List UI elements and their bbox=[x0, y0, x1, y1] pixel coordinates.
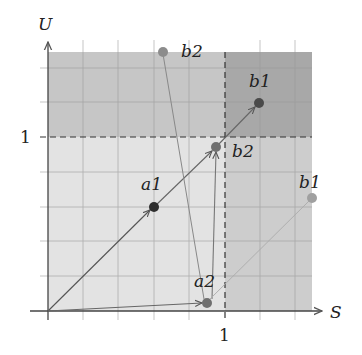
region-top-band bbox=[48, 52, 225, 137]
payoff-diagram: S U 1 1 a1 b2 b1 b2 a2 b1 bbox=[0, 0, 362, 355]
label-b2-mid: b2 bbox=[232, 141, 254, 161]
point-b1-dark bbox=[254, 98, 264, 108]
label-a1: a1 bbox=[141, 174, 162, 194]
x-tick-1: 1 bbox=[219, 325, 230, 345]
label-a2: a2 bbox=[194, 271, 215, 291]
point-b2-mid bbox=[211, 142, 221, 152]
point-b1-right bbox=[307, 193, 317, 203]
y-tick-1: 1 bbox=[20, 127, 31, 147]
point-b2-top bbox=[158, 47, 168, 57]
point-a2 bbox=[202, 298, 212, 308]
point-a1 bbox=[149, 202, 159, 212]
x-axis-label: S bbox=[330, 302, 342, 322]
region-right-band bbox=[225, 137, 312, 311]
label-b1-dark: b1 bbox=[249, 71, 271, 91]
y-axis-label: U bbox=[38, 14, 53, 34]
label-b1-right: b1 bbox=[299, 172, 321, 192]
label-b2-top: b2 bbox=[181, 41, 203, 61]
